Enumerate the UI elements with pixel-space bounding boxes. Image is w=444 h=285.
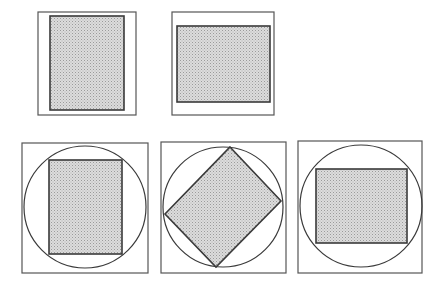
stippled-rectangle [177,26,270,102]
portrait-rectangle-in-circle-figure [22,143,148,273]
rotated-rectangle-in-circle-figure [161,142,286,273]
stippled-rectangle [50,16,124,110]
stippled-rectangle [165,147,281,267]
stippled-rectangle [316,169,407,243]
stippled-rectangle [49,160,122,254]
diagram-canvas [0,0,444,285]
portrait-rectangle-figure [38,12,136,115]
landscape-rectangle-figure [172,12,274,115]
landscape-rectangle-in-circle-figure [298,141,422,273]
